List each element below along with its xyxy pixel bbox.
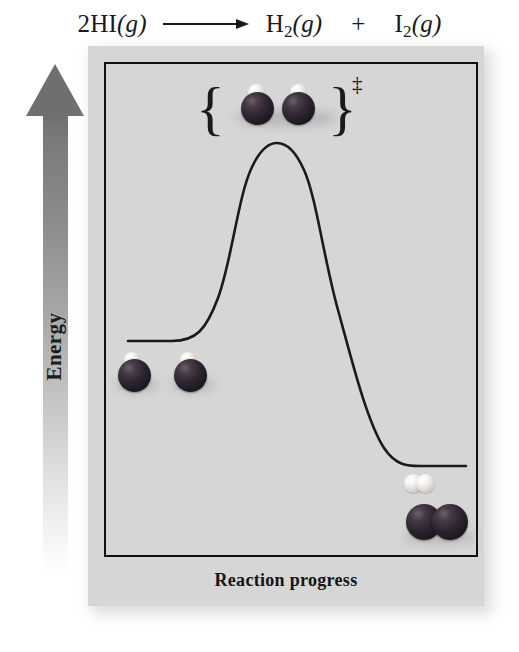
transition-state-left-brace: {	[196, 78, 225, 138]
double-dagger-icon: ‡	[352, 72, 363, 97]
product2-subscript: 2	[403, 22, 412, 41]
equation-reactant: 2HI(g)	[77, 10, 146, 37]
iodine-atom-icon	[174, 359, 207, 392]
product1-state: (g)	[293, 10, 323, 37]
iodine-atom-icon	[282, 92, 315, 125]
hydrogen-iodide-molecule-1	[118, 352, 156, 398]
x-axis-label: Reaction progress	[88, 570, 484, 591]
activated-complex-molecule	[240, 84, 332, 136]
reactant-state: (g)	[117, 10, 147, 37]
product1-formula: H	[266, 10, 284, 37]
energy-axis-arrow-icon: Energy	[26, 64, 84, 576]
equation-plus-sign: +	[351, 10, 365, 37]
iodine-atom-icon	[241, 92, 274, 125]
energy-arrow-head-icon	[26, 64, 84, 116]
hydrogen-iodide-molecule-2	[174, 352, 212, 398]
y-axis-label: Energy	[42, 277, 67, 417]
diiodine-molecule	[406, 504, 476, 546]
product2-formula: I	[395, 10, 404, 37]
reaction-equation: 2HI(g) H2(g) + I2(g)	[0, 10, 519, 42]
hydrogen-atom-icon	[416, 474, 435, 493]
dihydrogen-molecule	[404, 474, 444, 496]
equation-product-2: I2(g)	[395, 10, 442, 37]
figure-root: 2HI(g) H2(g) + I2(g) Energy { } ‡	[0, 0, 519, 652]
iodine-atom-icon	[118, 359, 151, 392]
equation-product-1: H2(g)	[266, 10, 323, 37]
iodine-atom-icon	[432, 504, 468, 540]
product1-subscript: 2	[284, 22, 293, 41]
product2-state: (g)	[412, 10, 442, 37]
reaction-arrow-icon	[163, 17, 249, 31]
reactant-formula: HI	[90, 10, 117, 37]
reactant-coefficient: 2	[77, 10, 90, 37]
